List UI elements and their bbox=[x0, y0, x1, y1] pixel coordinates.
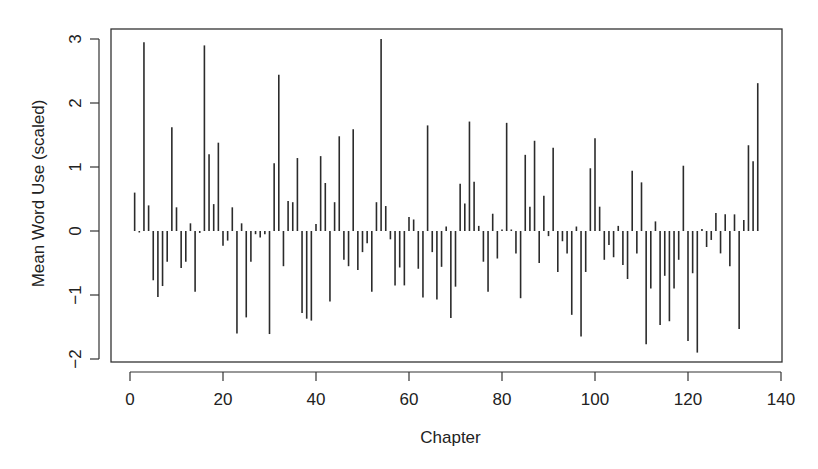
y-axis: −2−10123 bbox=[66, 34, 99, 368]
data-bars bbox=[135, 39, 758, 353]
x-tick-label: 120 bbox=[674, 390, 702, 409]
y-axis-title: Mean Word Use (scaled) bbox=[29, 100, 48, 288]
x-tick-label: 140 bbox=[767, 390, 795, 409]
x-tick-label: 80 bbox=[493, 390, 512, 409]
y-tick-label: −1 bbox=[66, 285, 85, 304]
chart-canvas: −2−10123 020406080100120140 Chapter Mean… bbox=[0, 0, 818, 469]
x-tick-label: 100 bbox=[581, 390, 609, 409]
plot-frame bbox=[111, 29, 782, 362]
y-tick-label: 2 bbox=[66, 98, 85, 107]
x-tick-label: 20 bbox=[214, 390, 233, 409]
word-use-chart: −2−10123 020406080100120140 Chapter Mean… bbox=[0, 0, 818, 469]
x-axis: 020406080100120140 bbox=[125, 372, 795, 409]
y-tick-label: 0 bbox=[66, 226, 85, 235]
x-axis-title: Chapter bbox=[420, 428, 481, 447]
x-tick-label: 40 bbox=[307, 390, 326, 409]
y-tick-label: 3 bbox=[66, 34, 85, 43]
y-tick-label: −2 bbox=[66, 349, 85, 368]
x-tick-label: 60 bbox=[400, 390, 419, 409]
x-tick-label: 0 bbox=[125, 390, 134, 409]
y-tick-label: 1 bbox=[66, 162, 85, 171]
